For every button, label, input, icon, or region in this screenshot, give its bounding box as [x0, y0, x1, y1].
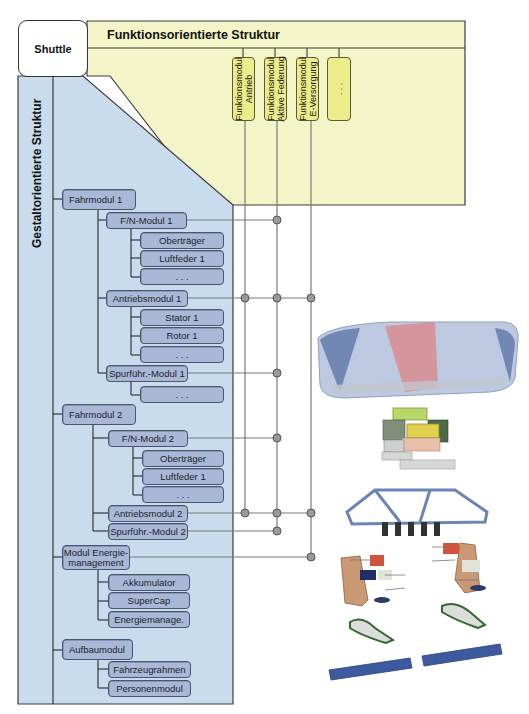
function-module-active-suspension: FunktionsmodulAktive Federung: [264, 57, 287, 121]
drive-module-1: Fahrmodul 1: [62, 189, 136, 210]
function-module-more: . . .: [327, 57, 351, 121]
function-module-power-supply: FunktionsmodulE-Versorgung: [296, 57, 319, 121]
stator-1: Stator 1: [140, 309, 224, 326]
rotor-1: Rotor 1: [140, 327, 224, 344]
connection-dot: [273, 216, 281, 224]
connection-dot: [241, 509, 249, 517]
air-spring-1: Luftfeder 1: [140, 250, 224, 267]
drive-motor-module-2: Antriebsmodul 2: [108, 505, 188, 522]
form-structure-title: Gestaltorientierte Struktur: [30, 99, 44, 248]
fn-module-2: F/N-Modul 2: [108, 430, 188, 447]
ellipsis-node: . . .: [140, 346, 224, 363]
shuttle-exploded-illustration: [318, 322, 518, 680]
passenger-module: Personenmodul: [108, 680, 191, 697]
upper-beam: Oberträger: [142, 450, 224, 467]
drive-module-2: Fahrmodul 2: [62, 404, 136, 425]
vehicle-frame: Fahrzeugrahmen: [108, 661, 191, 678]
energy-manager: Energiemanage.: [108, 611, 190, 628]
functional-structure-title: Funktionsorientierte Struktur: [107, 28, 280, 42]
energy-management-module: Modul Energie- management: [62, 545, 130, 570]
body-module: Aufbaumodul: [62, 639, 133, 660]
connection-dot: [307, 509, 315, 517]
connection-dot: [273, 434, 281, 442]
ellipsis-node: . . .: [140, 268, 224, 285]
fn-module-1: F/N-Modul 1: [106, 212, 187, 229]
connection-dot: [273, 294, 281, 302]
ellipsis-node: . . .: [140, 386, 224, 403]
guidance-module-1: Spurführ.-Modul 1: [106, 365, 188, 382]
upper-beam: Oberträger: [140, 232, 224, 249]
connection-dot: [307, 553, 315, 561]
shuttle-root-node: Shuttle: [18, 20, 88, 77]
connection-dot: [273, 527, 281, 535]
function-module-drive: FunktionsmodulAntrieb: [232, 57, 255, 121]
air-spring-1: Luftfeder 1: [142, 468, 224, 485]
guidance-module-2: Spurführ.-Modul 2: [108, 523, 188, 540]
connection-dot: [273, 369, 281, 377]
supercap: SuperCap: [108, 592, 190, 609]
accumulator: Akkumulator: [108, 574, 190, 591]
drive-motor-module-1: Antriebsmodul 1: [106, 290, 188, 307]
connection-dot: [307, 294, 315, 302]
ellipsis-node: . . .: [142, 486, 224, 503]
connection-dot: [273, 509, 281, 517]
connection-dot: [241, 294, 249, 302]
